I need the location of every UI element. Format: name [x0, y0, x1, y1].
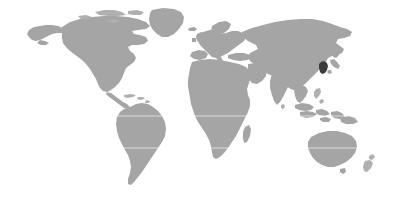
world-map	[0, 0, 413, 200]
world-map-figure	[0, 0, 413, 200]
